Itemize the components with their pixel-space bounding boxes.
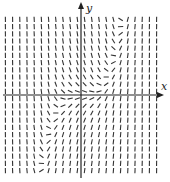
direction-segment bbox=[55, 67, 56, 72]
direction-segment bbox=[61, 111, 64, 115]
direction-segment bbox=[54, 125, 57, 129]
direction-segment bbox=[55, 31, 56, 36]
direction-segment bbox=[77, 31, 78, 36]
direction-segment bbox=[113, 82, 115, 87]
direction-segment bbox=[98, 38, 99, 43]
direction-segment bbox=[98, 46, 99, 51]
direction-segment bbox=[84, 154, 85, 159]
direction-segment bbox=[76, 67, 78, 72]
direction-segment bbox=[105, 53, 107, 58]
direction-segment bbox=[77, 125, 79, 130]
direction-segment bbox=[69, 60, 70, 65]
direction-segment bbox=[63, 161, 64, 166]
direction-segment bbox=[41, 89, 42, 94]
direction-segment bbox=[113, 96, 114, 101]
direction-segment bbox=[46, 126, 51, 128]
direction-segment bbox=[39, 169, 43, 172]
direction-segment bbox=[40, 139, 42, 144]
direction-segment bbox=[48, 89, 49, 94]
direction-segment bbox=[98, 68, 100, 73]
direction-segment bbox=[83, 111, 86, 116]
direction-segment bbox=[70, 53, 71, 58]
direction-segment bbox=[84, 38, 85, 43]
direction-segment bbox=[84, 118, 86, 123]
direction-segment bbox=[34, 168, 35, 173]
direction-segment bbox=[105, 46, 107, 51]
direction-segment bbox=[98, 60, 100, 65]
direction-segment bbox=[34, 103, 35, 108]
direction-segment bbox=[91, 118, 93, 123]
direction-segment bbox=[70, 38, 71, 43]
direction-segment bbox=[128, 67, 129, 72]
direction-segment bbox=[105, 89, 108, 93]
direction-segment bbox=[62, 67, 64, 72]
direction-segment bbox=[128, 82, 129, 87]
direction-segment bbox=[84, 67, 86, 72]
direction-segment bbox=[55, 46, 56, 51]
direction-segment bbox=[120, 82, 121, 87]
direction-segment bbox=[68, 104, 72, 108]
direction-segment bbox=[77, 161, 78, 166]
direction-segment bbox=[106, 118, 107, 123]
direction-segment bbox=[70, 31, 71, 36]
direction-segment bbox=[99, 168, 100, 173]
direction-segment bbox=[48, 154, 50, 159]
direction-segment bbox=[41, 67, 42, 72]
direction-segment bbox=[113, 125, 114, 130]
direction-segment bbox=[91, 67, 93, 72]
direction-segment bbox=[84, 53, 85, 58]
direction-segment bbox=[127, 60, 128, 65]
direction-segment bbox=[54, 119, 58, 122]
direction-segment bbox=[62, 60, 63, 65]
direction-segment bbox=[111, 55, 116, 56]
direction-segment bbox=[99, 161, 100, 166]
direction-segment bbox=[63, 46, 64, 51]
direction-segment bbox=[55, 132, 57, 137]
direction-segment bbox=[91, 46, 92, 51]
direction-segment bbox=[27, 168, 28, 173]
direction-segment bbox=[76, 111, 79, 116]
direction-segment bbox=[62, 146, 63, 151]
direction-segment bbox=[84, 24, 85, 29]
direction-segment bbox=[68, 90, 73, 92]
direction-segment bbox=[62, 53, 63, 58]
direction-segment bbox=[118, 18, 122, 21]
direction-segment bbox=[77, 154, 78, 159]
direction-segment bbox=[106, 132, 107, 137]
direction-segment bbox=[99, 154, 100, 159]
direction-segment bbox=[48, 74, 49, 79]
direction-segment bbox=[84, 139, 85, 144]
direction-segment bbox=[41, 74, 42, 79]
direction-segment bbox=[113, 110, 114, 115]
direction-segment bbox=[48, 38, 49, 43]
direction-segment bbox=[48, 46, 49, 51]
direction-segment bbox=[77, 38, 78, 43]
direction-segment bbox=[135, 17, 136, 22]
direction-segment bbox=[106, 111, 107, 116]
direction-segment bbox=[112, 75, 114, 80]
direction-segment bbox=[113, 17, 114, 22]
direction-segment bbox=[106, 38, 107, 43]
direction-segment bbox=[84, 46, 85, 51]
direction-segment bbox=[89, 91, 94, 92]
direction-segment bbox=[62, 139, 63, 144]
slope-field-plot: x y bbox=[0, 0, 170, 182]
direction-segment bbox=[77, 60, 79, 65]
direction-segment bbox=[90, 82, 94, 86]
direction-segment bbox=[69, 75, 71, 80]
direction-segment bbox=[70, 17, 71, 22]
direction-segment bbox=[55, 38, 56, 43]
direction-segment bbox=[75, 98, 80, 100]
direction-segment bbox=[70, 168, 71, 173]
direction-segment bbox=[70, 24, 71, 29]
direction-segment bbox=[91, 154, 92, 159]
direction-segment bbox=[91, 139, 92, 144]
x-axis-label: x bbox=[161, 80, 168, 93]
direction-segment bbox=[106, 146, 107, 151]
direction-segment bbox=[91, 125, 92, 130]
direction-segment bbox=[41, 96, 42, 101]
direction-segment bbox=[111, 46, 115, 49]
direction-segment bbox=[97, 91, 102, 92]
direction-segment bbox=[62, 125, 64, 130]
direction-segment bbox=[63, 168, 64, 173]
